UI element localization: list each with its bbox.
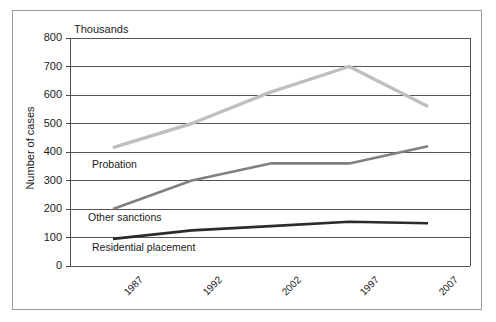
series-line xyxy=(113,146,428,209)
series-line xyxy=(113,67,428,148)
series-line xyxy=(113,222,428,239)
data-series xyxy=(113,67,428,239)
gridlines xyxy=(70,38,470,266)
plot-area xyxy=(0,0,496,322)
chart-figure: Thousands Number of cases 80070060050040… xyxy=(0,0,496,322)
